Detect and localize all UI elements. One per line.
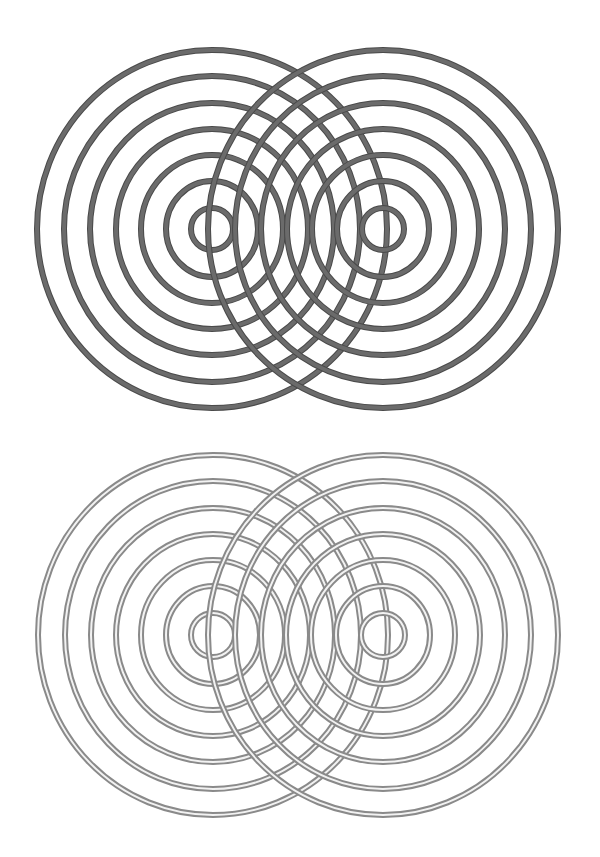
concentric-rings-outlined-figure: [0, 430, 600, 857]
ring-outline: [261, 508, 505, 762]
ring-source-right: [208, 50, 558, 408]
ring-inner: [286, 534, 480, 736]
ring-fill: [191, 208, 233, 250]
concentric-rings-solid-figure: [0, 0, 600, 430]
ring-fill: [287, 129, 479, 329]
ring-source-right: [208, 455, 558, 815]
ring-fill: [261, 103, 505, 355]
ring-fill: [235, 76, 531, 382]
ring-inner: [191, 613, 235, 657]
interference-pattern-solid: [0, 0, 600, 430]
ring-outline: [235, 481, 531, 789]
ring-fill: [362, 208, 404, 250]
interference-pattern-outlined: [0, 430, 600, 857]
ring-inner: [361, 613, 405, 657]
